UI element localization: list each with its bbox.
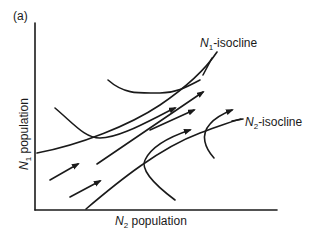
n2-isocline-label: N2-isocline xyxy=(245,115,302,131)
n1-isocline-label: N1-isocline xyxy=(200,36,257,52)
arrow-1 xyxy=(50,164,78,180)
n2-isocline xyxy=(86,119,241,209)
arrow-2 xyxy=(70,181,100,197)
trajectory-right xyxy=(204,110,232,158)
x-axis-label: N2 population xyxy=(115,214,187,230)
y-axis-label: N1 population xyxy=(17,98,33,170)
trajectory-u-upper xyxy=(108,80,200,93)
n1-leader xyxy=(203,58,212,75)
n2-leader xyxy=(232,119,243,121)
